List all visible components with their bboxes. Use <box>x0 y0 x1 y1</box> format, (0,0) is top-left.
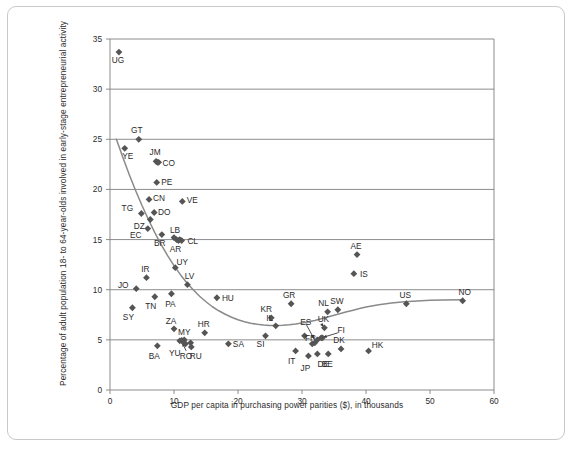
marker-diamond-GT <box>135 136 142 143</box>
point-label-JP: JP <box>301 363 311 373</box>
marker-diamond-TN <box>151 293 158 300</box>
data-point-BA[interactable]: BA <box>149 342 161 360</box>
point-label-LV: LV <box>185 271 195 281</box>
data-point-HU[interactable]: HU <box>213 293 233 303</box>
data-point-IS[interactable]: IS <box>350 269 368 279</box>
point-label-NO: NO <box>458 287 471 297</box>
marker-diamond-SW <box>334 306 341 313</box>
data-point-JP[interactable]: JP <box>301 353 312 373</box>
y-axis-title-wrap: Percentage of adult population 18- to 64… <box>52 30 74 390</box>
point-label-JO: JO <box>118 280 129 290</box>
marker-diamond-GR <box>288 300 295 307</box>
data-point-DK[interactable]: DK <box>333 335 345 352</box>
point-label-US: US <box>400 290 412 300</box>
data-point-ZA[interactable]: ZA <box>166 316 178 332</box>
data-point-HR[interactable]: HR <box>198 319 210 336</box>
point-label-CO: CO <box>162 158 175 168</box>
point-label-CN: CN <box>153 193 165 203</box>
point-label-SA: SA <box>233 339 245 349</box>
data-point-JO[interactable]: JO <box>118 280 140 292</box>
marker-diamond-PE <box>153 179 160 186</box>
marker-diamond-EC <box>144 225 151 232</box>
marker-diamond-DO <box>151 209 158 216</box>
scatter-chart: 051015202530350102030405060UGGTYEJMCOPEC… <box>0 0 574 449</box>
marker-diamond-CN <box>146 196 153 203</box>
data-point-SW[interactable]: SW <box>330 296 344 313</box>
chart-canvas: 051015202530350102030405060UGGTYEJMCOPEC… <box>0 0 574 449</box>
marker-diamond-HU <box>213 294 220 301</box>
x-axis-title: GDP per capita in purchasing power parit… <box>0 400 574 410</box>
point-label-UK: UK <box>318 314 330 324</box>
point-label-GT: GT <box>131 125 143 135</box>
data-point-NO[interactable]: NO <box>458 287 471 304</box>
y-tick-label-35: 35 <box>93 34 103 44</box>
marker-diamond-TG <box>138 210 145 217</box>
point-label-YE: YE <box>122 151 134 161</box>
marker-diamond-DK <box>338 345 345 352</box>
marker-diamond-ZA <box>171 325 178 332</box>
marker-diamond-HR <box>201 329 208 336</box>
point-label-SW: SW <box>330 296 344 306</box>
point-label-ZA: ZA <box>166 316 177 326</box>
data-point-SI[interactable]: SI <box>257 332 269 348</box>
data-point-SY[interactable]: SY <box>123 304 136 321</box>
marker-diamond-IL <box>272 322 279 329</box>
data-point-AE[interactable]: AE <box>351 241 363 258</box>
marker-diamond-SA <box>225 340 232 347</box>
point-label-RU: RU <box>190 351 202 361</box>
point-label-LB: LB <box>170 225 181 235</box>
point-label-BR: BR <box>154 238 166 248</box>
data-point-VE[interactable]: VE <box>179 195 198 205</box>
data-point-UY[interactable]: UY <box>172 257 189 271</box>
point-label-HU: HU <box>222 293 234 303</box>
marker-diamond-VE <box>179 198 186 205</box>
point-label-TN: TN <box>145 301 156 311</box>
point-label-SI: SI <box>257 339 265 349</box>
point-label-AR: AR <box>170 244 182 254</box>
point-label-JM: JM <box>150 147 161 157</box>
data-point-RU[interactable]: RU <box>187 339 201 360</box>
marker-diamond-IT <box>292 347 299 354</box>
gridlines <box>110 39 494 340</box>
marker-diamond-PA <box>168 290 175 297</box>
data-point-GT[interactable]: GT <box>131 125 143 142</box>
data-point-UG[interactable]: UG <box>112 49 124 65</box>
y-tick-label-25: 25 <box>93 134 103 144</box>
data-point-LV[interactable]: LV <box>184 271 195 288</box>
point-label-AE: AE <box>351 241 363 251</box>
point-label-UG: UG <box>112 55 124 65</box>
data-point-NL[interactable]: NL <box>318 298 331 315</box>
point-label-IR: IR <box>141 264 149 274</box>
data-point-SA[interactable]: SA <box>225 339 244 349</box>
point-label-UY: UY <box>177 257 189 267</box>
data-point-IT[interactable]: IT <box>288 347 299 365</box>
data-point-US[interactable]: US <box>400 290 412 307</box>
data-point-IR[interactable]: IR <box>141 264 150 281</box>
y-tick-label-15: 15 <box>93 235 103 245</box>
marker-diamond-JP <box>305 353 312 360</box>
marker-diamond-IR <box>143 274 150 281</box>
data-point-HK[interactable]: HK <box>365 340 384 354</box>
point-label-FI: FI <box>338 325 345 335</box>
data-point-CN[interactable]: CN <box>146 193 165 203</box>
point-label-MY: MY <box>178 327 191 337</box>
data-point-PE[interactable]: PE <box>153 177 172 187</box>
point-label-HR: HR <box>198 319 210 329</box>
data-point-PA[interactable]: PA <box>165 290 176 308</box>
data-point-UK[interactable]: UK <box>318 314 330 331</box>
data-point-DO[interactable]: DO <box>151 207 171 217</box>
y-tick-label-5: 5 <box>97 335 102 345</box>
y-tick-label-30: 30 <box>93 84 103 94</box>
y-tick-label-0: 0 <box>97 385 102 395</box>
point-label-GR: GR <box>283 290 295 300</box>
data-point-YE[interactable]: YE <box>121 145 133 161</box>
point-label-HK: HK <box>372 340 384 350</box>
marker-diamond-DE <box>314 350 321 357</box>
point-label-PA: PA <box>165 299 176 309</box>
data-point-GR[interactable]: GR <box>283 290 295 307</box>
point-label-NL: NL <box>318 298 329 308</box>
point-label-PE: PE <box>161 177 173 187</box>
data-point-IL[interactable]: IL <box>266 313 279 329</box>
data-point-TN[interactable]: TN <box>145 293 158 310</box>
point-label-TG: TG <box>122 203 134 213</box>
